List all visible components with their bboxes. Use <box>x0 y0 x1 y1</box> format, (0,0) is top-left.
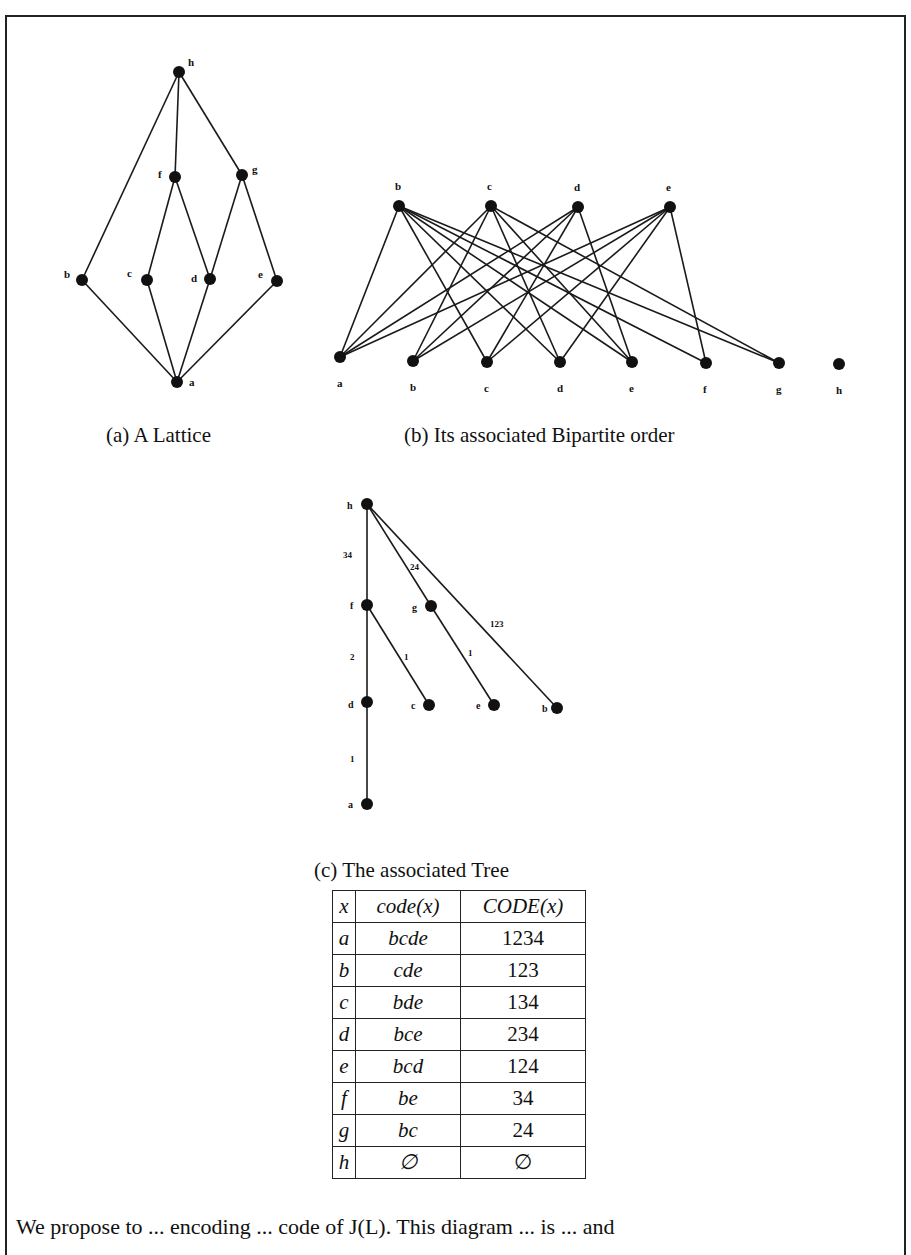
tree-edge-label: 1 <box>468 648 473 658</box>
cell-CODE: 1234 <box>461 923 586 955</box>
bipartite-top-node-e <box>664 201 676 213</box>
tree-edge-label: 123 <box>490 619 504 629</box>
bipartite-edge <box>670 207 706 363</box>
bipartite-top-label-b: b <box>395 180 401 192</box>
tree-label-h: h <box>347 500 353 511</box>
table-row: gbc24 <box>333 1115 586 1147</box>
tree-node-f <box>361 599 373 611</box>
tree-label-f: f <box>350 600 354 611</box>
cell-code: be <box>356 1083 461 1115</box>
bipartite-top-node-d <box>572 201 584 213</box>
tree-label-b: b <box>542 703 548 714</box>
lattice-node-a <box>171 376 183 388</box>
lattice-label-a: a <box>189 376 195 388</box>
lattice-edge <box>175 177 210 279</box>
table-row: fbe34 <box>333 1083 586 1115</box>
header-x: x <box>333 891 356 923</box>
tree-label-e: e <box>476 700 481 711</box>
bipartite-bottom-node-g <box>773 357 785 369</box>
header-code: code(x) <box>356 891 461 923</box>
tree-edge-label: 1 <box>350 754 355 764</box>
cell-code: bde <box>356 987 461 1019</box>
tree-label-g: g <box>412 602 417 613</box>
cell-CODE: 124 <box>461 1051 586 1083</box>
cell-x: c <box>333 987 356 1019</box>
tree-edge-label: 34 <box>343 550 353 560</box>
bipartite-bottom-label-b: b <box>410 381 416 393</box>
bipartite-bottom-node-a <box>334 351 346 363</box>
lattice-label-b: b <box>64 268 70 280</box>
bipartite-edge <box>578 207 632 362</box>
lattice-label-h: h <box>188 56 194 68</box>
bipartite-top-node-c <box>485 200 497 212</box>
lattice-label-e: e <box>258 268 263 280</box>
caption-bipartite: (b) Its associated Bipartite order <box>404 423 675 448</box>
bipartite-edge <box>399 206 706 363</box>
bipartite-bottom-node-c <box>481 356 493 368</box>
code-table: x code(x) CODE(x) abcde1234bcde123cbde13… <box>332 890 586 1179</box>
lattice-edge <box>179 72 242 175</box>
tree-edge <box>431 606 494 705</box>
lattice-label-g: g <box>252 163 258 175</box>
cell-code: bce <box>356 1019 461 1051</box>
tree-diagram: 34241232111hfgdceba <box>343 498 563 810</box>
bipartite-bottom-label-d: d <box>557 382 563 394</box>
bipartite-bottom-node-e <box>626 356 638 368</box>
bipartite-edge <box>487 207 670 362</box>
bipartite-top-label-d: d <box>574 181 580 193</box>
cell-x: g <box>333 1115 356 1147</box>
tree-node-a <box>361 798 373 810</box>
cell-CODE: 24 <box>461 1115 586 1147</box>
cell-x: f <box>333 1083 356 1115</box>
cell-x: a <box>333 923 356 955</box>
tree-node-c <box>423 699 435 711</box>
bipartite-bottom-label-h: h <box>836 384 842 396</box>
cell-code: bcde <box>356 923 461 955</box>
lattice-label-c: c <box>127 267 132 279</box>
lattice-diagram: hfgbcdea <box>64 56 283 388</box>
cell-x: b <box>333 955 356 987</box>
lattice-node-c <box>141 274 153 286</box>
bipartite-top-label-e: e <box>666 181 671 193</box>
table-header-row: x code(x) CODE(x) <box>333 891 586 923</box>
lattice-node-b <box>76 274 88 286</box>
lattice-edge <box>210 175 242 279</box>
table-row: ebcd124 <box>333 1051 586 1083</box>
lattice-node-d <box>204 273 216 285</box>
lattice-node-e <box>271 275 283 287</box>
bipartite-edge <box>340 206 491 357</box>
cell-CODE: 134 <box>461 987 586 1019</box>
cell-x: h <box>333 1147 356 1179</box>
bipartite-bottom-label-g: g <box>776 383 782 395</box>
lattice-edge <box>177 281 277 382</box>
bipartite-top-node-b <box>393 200 405 212</box>
cell-code: ∅ <box>356 1147 461 1179</box>
tree-label-a: a <box>348 799 353 810</box>
lattice-node-g <box>236 169 248 181</box>
bipartite-edge <box>491 206 779 363</box>
caption-tree: (c) The associated Tree <box>314 858 509 883</box>
table-row: dbce234 <box>333 1019 586 1051</box>
cell-CODE: 34 <box>461 1083 586 1115</box>
cell-x: d <box>333 1019 356 1051</box>
table-row: abcde1234 <box>333 923 586 955</box>
bipartite-bottom-label-e: e <box>629 382 634 394</box>
bipartite-edge <box>560 207 670 362</box>
lattice-label-f: f <box>158 168 162 180</box>
bipartite-bottom-label-a: a <box>337 377 343 389</box>
bipartite-edge <box>340 207 578 357</box>
lattice-edge <box>175 72 179 177</box>
lattice-node-h <box>173 66 185 78</box>
tree-edge-label: 1 <box>404 652 409 662</box>
bipartite-top-label-c: c <box>487 180 492 192</box>
tree-edge-label: 2 <box>350 652 355 662</box>
bipartite-edge <box>491 206 632 362</box>
cell-x: e <box>333 1051 356 1083</box>
tree-node-h <box>361 498 373 510</box>
bipartite-bottom-label-c: c <box>484 382 489 394</box>
cell-CODE: ∅ <box>461 1147 586 1179</box>
bipartite-bottom-node-d <box>554 356 566 368</box>
bipartite-bottom-node-f <box>700 357 712 369</box>
table-row: cbde134 <box>333 987 586 1019</box>
tree-edge <box>367 504 557 708</box>
